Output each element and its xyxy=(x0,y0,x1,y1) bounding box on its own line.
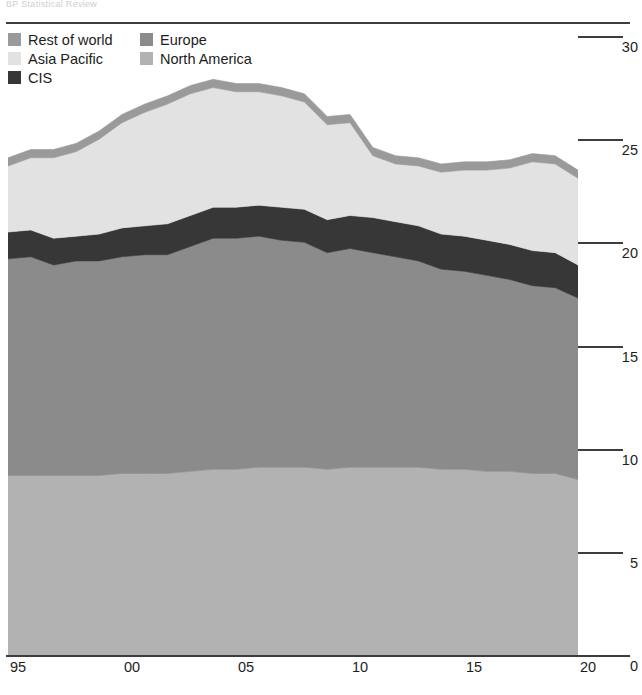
y-tick-line-5 xyxy=(578,552,623,554)
area-series-north-america xyxy=(8,467,578,655)
x-tick-label-00: 00 xyxy=(124,659,140,675)
chart-page: BP Statistical Review Rest of worldEurop… xyxy=(0,0,642,695)
x-tick-label-15: 15 xyxy=(466,659,482,675)
plot-area xyxy=(8,36,578,655)
y-tick-line-15 xyxy=(578,346,623,348)
y-axis: 051015202530 xyxy=(578,0,642,695)
y-tick-label-15: 15 xyxy=(602,349,638,365)
x-tick-label-20: 20 xyxy=(580,659,596,675)
x-axis-labels: 950005101520 xyxy=(0,659,642,683)
y-tick-line-30 xyxy=(578,36,623,38)
y-tick-line-25 xyxy=(578,139,623,141)
y-tick-label-5: 5 xyxy=(602,555,638,571)
header-rule xyxy=(6,22,630,24)
y-tick-line-10 xyxy=(578,449,623,451)
y-tick-label-20: 20 xyxy=(602,245,638,261)
x-tick-label-95: 95 xyxy=(10,659,26,675)
y-tick-line-20 xyxy=(578,242,623,244)
y-tick-label-25: 25 xyxy=(602,142,638,158)
y-tick-label-10: 10 xyxy=(602,452,638,468)
x-tick-label-05: 05 xyxy=(238,659,254,675)
cropped-caption: BP Statistical Review xyxy=(6,0,97,9)
x-axis-line xyxy=(6,655,630,657)
stacked-area-chart xyxy=(8,36,578,655)
y-tick-label-30: 30 xyxy=(602,39,638,55)
x-tick-label-10: 10 xyxy=(352,659,368,675)
